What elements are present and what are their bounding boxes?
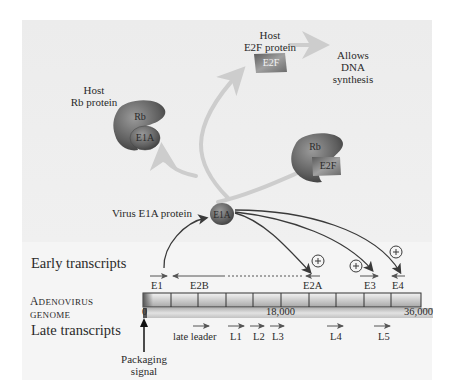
allows-line3: synthesis	[330, 73, 376, 85]
rb-complex-e2f-label: E2F	[314, 160, 342, 172]
packaging-signal-label: Packaging signal	[118, 353, 170, 377]
transcript-l5: L5	[378, 331, 390, 342]
host-rb-line1: Host	[66, 84, 122, 96]
rb-shape-label: Rb	[130, 111, 150, 123]
allows-line1: Allows	[330, 49, 376, 61]
packaging-line2: signal	[118, 365, 170, 377]
genome-tick-36000: 36,000	[404, 306, 433, 317]
transcript-e2b: E2B	[190, 280, 209, 291]
genome-tick-18000: 18,000	[266, 306, 295, 317]
transcript-l2: L2	[253, 331, 265, 342]
rb-complex-rb-label: Rb	[305, 141, 325, 153]
virus-e1a-shape-label: E1A	[210, 209, 234, 221]
host-e2f-line1: Host	[238, 29, 302, 41]
plus-icons	[312, 246, 402, 272]
genome-label-cap: A	[30, 295, 39, 307]
e2f-shape-label: E2F	[257, 57, 285, 69]
host-e2f-protein-label: Host E2F protein	[238, 29, 302, 53]
genome-label-line2: GENOME	[30, 309, 93, 322]
transcript-e4: E4	[392, 280, 404, 291]
host-e2f-line2: E2F protein	[238, 41, 302, 53]
early-transcripts-label: Early transcripts	[31, 255, 126, 272]
genome-tick-0: 0	[142, 306, 147, 317]
allows-dna-synthesis-label: Allows DNA synthesis	[330, 49, 376, 85]
packaging-signal-arrow	[140, 318, 148, 352]
transcript-e2a: E2A	[303, 280, 322, 291]
genome-label-line1: ADENOVIRUS	[30, 295, 93, 309]
packaging-line1: Packaging	[118, 353, 170, 365]
allows-line2: DNA	[330, 61, 376, 73]
host-rb-protein-label: Host Rb protein	[66, 84, 122, 108]
genome-label-rest: DENOVIRUS	[39, 297, 94, 307]
e1a-activation-arrows	[164, 210, 400, 272]
transcript-e1: E1	[151, 280, 163, 291]
e1a-shape-label: E1A	[133, 132, 157, 144]
pathway-arrows	[162, 45, 322, 202]
virus-e1a-protein-label: Virus E1A protein	[112, 207, 192, 219]
transcript-l1: L1	[230, 331, 242, 342]
late-transcripts-label: Late transcripts	[31, 322, 121, 339]
transcript-l3: L3	[272, 331, 284, 342]
host-rb-line2: Rb protein	[66, 96, 122, 108]
transcript-l4: L4	[330, 331, 342, 342]
transcript-e3: E3	[364, 280, 376, 291]
transcript-late-leader: late leader	[173, 331, 216, 342]
adenovirus-genome-label: ADENOVIRUS GENOME	[30, 295, 93, 322]
